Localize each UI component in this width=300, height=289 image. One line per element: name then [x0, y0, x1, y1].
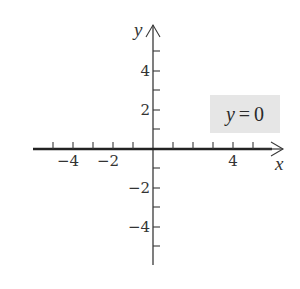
x-tick-label-neg2: −2	[97, 152, 119, 170]
y-tick-label-neg4: −4	[128, 218, 150, 236]
x-axis-label: x	[274, 153, 284, 174]
equation-label: y=0	[224, 103, 264, 126]
y-tick-label-4: 4	[140, 62, 150, 80]
y-tick-label-2: 2	[140, 101, 150, 119]
graph-y-equals-0: y=0 4 2 −2 −4 y	[0, 0, 300, 289]
x-tick-label-neg4: −4	[57, 152, 79, 170]
y-tick-label-neg2: −2	[128, 179, 150, 197]
y-axis-label: y	[132, 19, 143, 40]
equation-label-box: y=0	[210, 95, 280, 133]
x-axis: −4 −2 4 x	[33, 142, 284, 174]
x-tick-label-4: 4	[228, 152, 238, 170]
